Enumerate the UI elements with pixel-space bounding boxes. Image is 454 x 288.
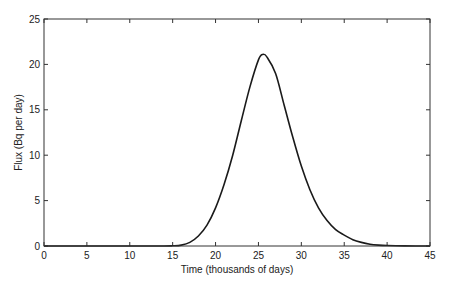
x-tick-label: 0 bbox=[41, 250, 47, 261]
y-axis-ticks: 0510152025 bbox=[29, 14, 430, 252]
y-tick-label: 15 bbox=[29, 104, 41, 115]
x-tick-label: 40 bbox=[382, 250, 394, 261]
x-tick-label: 15 bbox=[167, 250, 179, 261]
x-tick-label: 10 bbox=[124, 250, 136, 261]
x-tick-label: 25 bbox=[253, 250, 265, 261]
y-axis-label: Flux (Bq per day) bbox=[13, 94, 24, 171]
x-tick-label: 20 bbox=[210, 250, 222, 261]
x-axis-label: Time (thousands of days) bbox=[181, 264, 293, 275]
y-tick-label: 10 bbox=[29, 150, 41, 161]
x-tick-label: 45 bbox=[424, 250, 436, 261]
y-tick-label: 5 bbox=[34, 195, 40, 206]
y-tick-label: 25 bbox=[29, 14, 41, 25]
axes-frame bbox=[44, 19, 430, 246]
y-tick-label: 0 bbox=[34, 241, 40, 252]
x-tick-label: 35 bbox=[339, 250, 351, 261]
y-tick-label: 20 bbox=[29, 59, 41, 70]
x-axis-ticks: 051015202530354045 bbox=[41, 19, 436, 261]
flux-curve bbox=[44, 54, 430, 246]
x-tick-label: 5 bbox=[84, 250, 90, 261]
x-tick-label: 30 bbox=[296, 250, 308, 261]
flux-chart: 051015202530354045 0510152025 Time (thou… bbox=[0, 0, 454, 288]
